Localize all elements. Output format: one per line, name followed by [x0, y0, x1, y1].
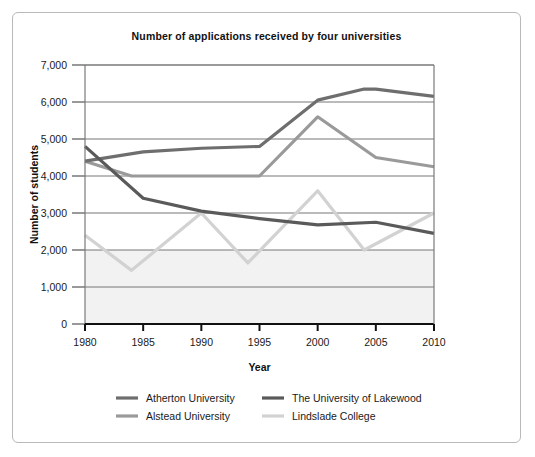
x-tick-label: 2010 — [422, 336, 446, 348]
x-axis-ticks: 1980198519901995200020052010 — [73, 324, 446, 348]
legend-label: Atherton University — [146, 392, 235, 404]
y-tick-label: 1,000 — [41, 281, 67, 293]
y-tick-label: 2,000 — [41, 244, 67, 256]
y-tick-label: 3,000 — [41, 207, 67, 219]
data-series — [85, 89, 434, 270]
y-tick-label: 6,000 — [41, 96, 67, 108]
y-axis-ticks: 01,0002,0003,0004,0005,0006,0007,000 — [41, 59, 85, 330]
legend-label: Alstead University — [146, 410, 231, 422]
x-tick-label: 1995 — [248, 336, 272, 348]
series-line — [85, 89, 434, 161]
x-tick-label: 2005 — [364, 336, 388, 348]
x-axis-label: Year — [248, 361, 270, 373]
legend-label: The University of Lakewood — [292, 392, 422, 404]
y-tick-label: 5,000 — [41, 133, 67, 145]
x-tick-label: 1990 — [190, 336, 214, 348]
chart-svg: 01,0002,0003,0004,0005,0006,0007,000 198… — [0, 0, 535, 457]
legend-label: Lindslade College — [292, 410, 376, 422]
y-axis-label: Number of students — [28, 145, 40, 244]
chart-figure: 01,0002,0003,0004,0005,0006,0007,000 198… — [0, 0, 535, 457]
y-tick-label: 0 — [61, 318, 67, 330]
x-tick-label: 1985 — [131, 336, 155, 348]
x-tick-label: 2000 — [306, 336, 330, 348]
y-tick-label: 4,000 — [41, 170, 67, 182]
chart-legend: Atherton UniversityThe University of Lak… — [116, 392, 422, 422]
y-tick-label: 7,000 — [41, 59, 67, 71]
x-tick-label: 1980 — [73, 336, 97, 348]
